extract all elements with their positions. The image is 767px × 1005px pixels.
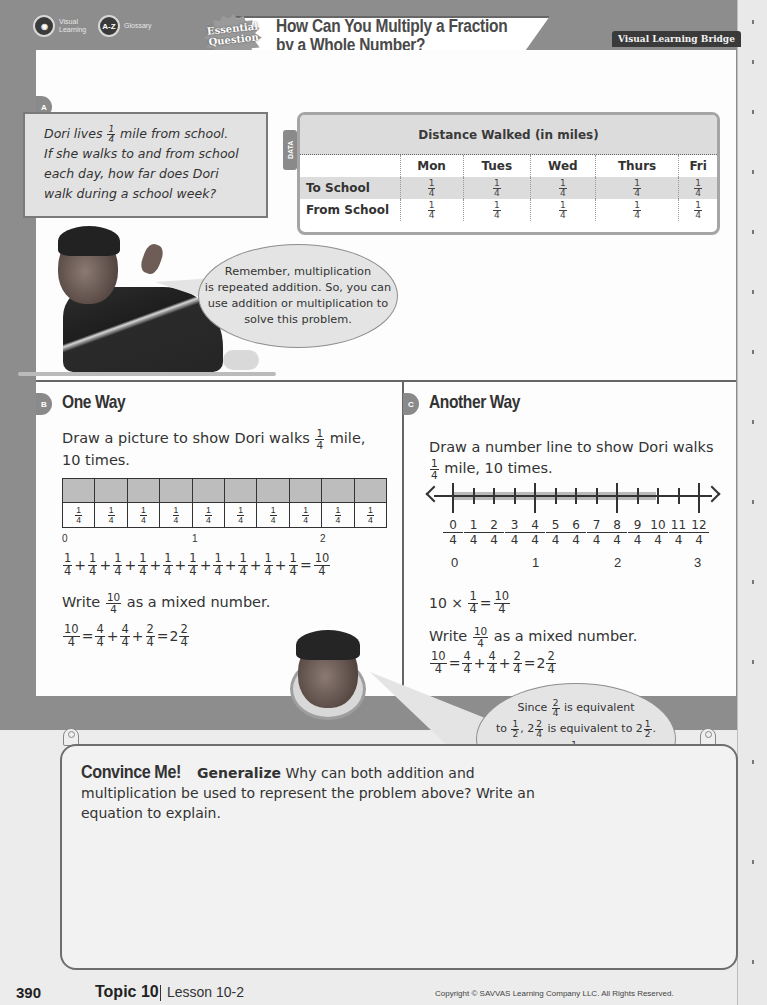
speech-bubble-remember: Remember, multiplication is repeated add… <box>198 244 398 348</box>
convince-me-title: Convince Me! <box>81 762 181 782</box>
bar-cell: 14 <box>290 503 322 527</box>
bar-cell: 14 <box>322 503 354 527</box>
another-way-instructions: Draw a number line to show Dori walks 14… <box>429 437 714 480</box>
whole-label-3: 3 <box>694 555 701 570</box>
number-line-tick <box>596 488 598 504</box>
tick-label: 104 <box>648 518 668 547</box>
number-line-tick <box>616 483 618 513</box>
write-mixed-c: Write 104 as a mixed number. <box>429 626 637 648</box>
tick-label: 124 <box>689 518 709 547</box>
tick-label: 84 <box>607 518 627 547</box>
bar-cell: 14 <box>128 503 160 527</box>
number-line-tick <box>555 488 557 504</box>
distance-table: Distance Walked (in miles) Mon Tues Wed … <box>297 112 720 235</box>
visual-label: Visual <box>59 18 86 26</box>
mixed-number-equation-b: 104= 44+ 44+ 24= 224 <box>62 624 190 648</box>
tick-label: 44 <box>525 518 545 547</box>
whole-label-2: 2 <box>614 555 621 570</box>
arrow-left-icon <box>426 486 443 503</box>
number-line-tick <box>657 488 659 504</box>
mixed-number-equation-c: 104= 44+ 44+ 24= 224 <box>429 651 557 675</box>
bar-label-0: 0 <box>62 533 68 544</box>
bar-cell: 14 <box>355 503 386 527</box>
number-line-tick <box>698 483 700 513</box>
write-mixed-b: Write 104 as a mixed number. <box>62 592 270 614</box>
essential-question-badge: EssentialQuestion <box>200 14 270 54</box>
glossary-button[interactable]: A-Z Glossary <box>98 15 152 37</box>
one-way-instructions: Draw a picture to show Dori walks 14 mil… <box>62 428 365 471</box>
number-line-tick <box>678 488 680 504</box>
tick-label: 114 <box>669 518 689 547</box>
page-footer: 390 Topic 10 Lesson 10-2 Copyright © SAV… <box>0 980 737 1005</box>
tick-label: 94 <box>628 518 648 547</box>
visual-learning-button[interactable]: ◉ VisualLearning <box>33 15 86 37</box>
character-portrait <box>290 630 370 720</box>
bar-cell: 14 <box>225 503 257 527</box>
eye-icon: ◉ <box>33 15 55 37</box>
number-line-tick <box>575 488 577 504</box>
bar-label-2: 2 <box>320 533 326 544</box>
glossary-label: Glossary <box>124 22 152 30</box>
page-number: 390 <box>16 984 41 1001</box>
tick-label: 24 <box>484 518 504 547</box>
page-edge <box>737 0 767 1005</box>
tick-label: 74 <box>587 518 607 547</box>
number-line-tick <box>637 488 639 504</box>
number-line <box>428 483 718 513</box>
bar-model-diagram: 14141414141414141414 <box>62 478 387 528</box>
bar-cell: 14 <box>193 503 225 527</box>
addition-equation: 14+14+14+14+14+14+14+14+14+14=104 <box>62 553 331 577</box>
copyright: Copyright © SAVVAS Learning Company LLC.… <box>435 989 674 998</box>
tick-label: 04 <box>443 518 463 547</box>
tick-label: 54 <box>546 518 566 547</box>
data-tag: DATA <box>283 130 297 170</box>
learning-label: Learning <box>59 26 86 34</box>
tick-label: 34 <box>505 518 525 547</box>
bar-cell: 14 <box>160 503 192 527</box>
whole-label-1: 1 <box>532 555 539 570</box>
bar-cell: 14 <box>63 503 95 527</box>
table-row: From School 14 14 14 14 14 <box>300 199 717 221</box>
fraction: 14 <box>107 125 115 144</box>
number-line-tick <box>493 488 495 504</box>
number-line-tick <box>452 483 454 513</box>
table-title: Distance Walked (in miles) <box>300 115 717 155</box>
topic-label: Topic 10 <box>95 983 159 1001</box>
another-way-title: Another Way <box>429 391 520 413</box>
lesson-label: Lesson 10-2 <box>167 984 244 1000</box>
number-line-tick <box>534 483 536 513</box>
a-z-icon: A-Z <box>98 15 120 37</box>
tick-label: 64 <box>566 518 586 547</box>
problem-box: Dori lives 14 mile from school. If she w… <box>23 112 268 218</box>
multiplication-equation: 10 × 14=104 <box>429 591 511 615</box>
tick-label: 14 <box>464 518 484 547</box>
convince-me-prompt: Convince Me! Generalize Why can both add… <box>81 762 551 823</box>
number-line-tick <box>514 488 516 504</box>
whole-label-0: 0 <box>451 555 458 570</box>
table-row: To School 14 14 14 14 14 <box>300 177 717 199</box>
arrow-right-icon <box>704 486 721 503</box>
number-line-tick <box>473 488 475 504</box>
bar-cell: 14 <box>257 503 289 527</box>
bar-cell: 14 <box>95 503 127 527</box>
visual-learning-bridge-label: Visual Learning Bridge <box>612 31 741 47</box>
bar-label-1: 1 <box>192 533 198 544</box>
practice-label: Generalize <box>197 765 281 781</box>
table-header-row: Mon Tues Wed Thurs Fri <box>300 155 717 177</box>
one-way-title: One Way <box>62 391 125 413</box>
